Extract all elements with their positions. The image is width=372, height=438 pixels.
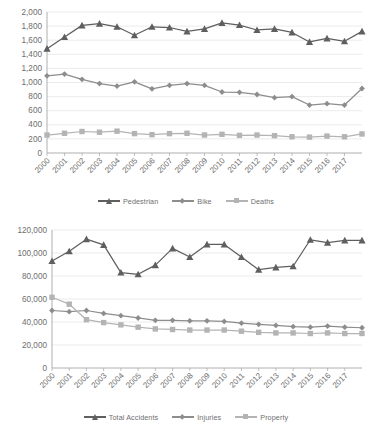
x-axis-tick-label: 2011 — [228, 371, 247, 390]
data-point-marker — [307, 102, 313, 108]
y-axis-tick-label: 2,000 — [22, 8, 43, 17]
data-point-marker — [131, 32, 138, 39]
x-axis-tick-label: 2004 — [107, 371, 126, 390]
data-point-marker — [44, 132, 49, 137]
legend-marker-triangle-icon — [84, 413, 106, 421]
x-axis-tick-label: 2015 — [296, 371, 315, 390]
legend-item[interactable]: Injuries — [172, 413, 221, 422]
legend-marker-diamond-icon — [172, 413, 194, 421]
data-point-marker — [324, 101, 330, 107]
x-axis-tick-label: 2005 — [124, 371, 143, 390]
data-point-marker — [62, 71, 68, 77]
x-axis-tick-label: 2015 — [295, 156, 314, 175]
data-point-marker — [239, 329, 244, 334]
data-point-marker — [84, 317, 89, 322]
data-point-marker — [273, 330, 278, 335]
data-point-marker — [79, 129, 84, 134]
series-pedestrian — [43, 19, 365, 51]
legend-marker-square-icon — [226, 197, 248, 205]
data-point-marker — [325, 323, 331, 329]
y-axis-tick-label: 120,000 — [17, 226, 47, 235]
data-point-marker — [272, 95, 278, 101]
data-point-marker — [254, 132, 259, 137]
x-axis-tick-label: 2014 — [278, 156, 297, 175]
data-point-marker — [202, 82, 208, 88]
y-axis-tick-label: 1,400 — [22, 50, 43, 59]
data-point-marker — [184, 81, 190, 87]
legend-item[interactable]: Property — [235, 413, 288, 422]
legend-label: Property — [260, 413, 288, 422]
x-axis-tick-label: 2002 — [68, 156, 87, 175]
x-axis-tick-label: 2013 — [262, 371, 281, 390]
legend-item[interactable]: Bike — [172, 197, 211, 206]
data-point-marker — [169, 245, 176, 252]
series-injuries — [49, 308, 365, 331]
traffic-fatalities-chart: 02004006008001,0001,2001,4001,6001,8002,… — [0, 0, 372, 220]
x-axis-tick-label: 2009 — [193, 371, 212, 390]
data-point-marker — [187, 327, 192, 332]
data-point-marker — [48, 257, 55, 264]
data-point-marker — [66, 309, 72, 315]
y-axis-tick-label: 400 — [28, 120, 42, 129]
data-point-marker — [184, 131, 189, 136]
data-point-marker — [308, 331, 313, 336]
data-point-marker — [132, 79, 138, 85]
plot-svg-bottom: 020,00040,00060,00080,000100,000120,0002… — [0, 220, 372, 410]
x-axis-tick-label: 2008 — [173, 156, 192, 175]
y-axis-tick-label: 60,000 — [22, 295, 47, 304]
data-point-marker — [289, 94, 295, 100]
data-point-marker — [256, 330, 261, 335]
plot-svg-top: 02004006008001,0001,2001,4001,6001,8002,… — [0, 0, 372, 195]
x-axis-tick-label: 2007 — [155, 156, 174, 175]
data-point-marker — [149, 86, 155, 92]
data-point-marker — [44, 73, 50, 79]
legend-marker-square-icon — [235, 413, 257, 421]
data-point-marker — [118, 313, 124, 319]
series-total-accidents — [48, 236, 365, 278]
data-point-marker — [237, 89, 243, 95]
data-point-marker — [237, 133, 242, 138]
data-point-marker — [135, 324, 140, 329]
x-axis-tick-label: 2004 — [103, 156, 122, 175]
data-point-marker — [79, 76, 85, 82]
y-axis-tick-label: 1,800 — [22, 22, 43, 31]
data-point-marker — [219, 89, 225, 95]
x-axis-tick-label: 2010 — [208, 156, 227, 175]
data-point-marker — [170, 327, 175, 332]
x-axis-tick-label: 2009 — [190, 156, 209, 175]
data-point-marker — [359, 325, 365, 331]
data-point-marker — [359, 131, 364, 136]
data-point-marker — [359, 331, 364, 336]
legend-item[interactable]: Pedestrian — [98, 197, 158, 206]
legend-marker-triangle-icon — [98, 197, 120, 205]
data-point-marker — [290, 324, 296, 330]
legend-item[interactable]: Deaths — [226, 197, 274, 206]
x-axis-tick-label: 2011 — [226, 156, 245, 175]
data-point-marker — [222, 327, 227, 332]
data-point-marker — [323, 35, 330, 42]
data-point-marker — [204, 318, 210, 324]
data-point-marker — [118, 322, 123, 327]
data-point-marker — [202, 132, 207, 137]
x-axis-tick-label: 2003 — [90, 371, 109, 390]
data-point-marker — [62, 131, 67, 136]
legend-marker-diamond-icon — [172, 197, 194, 205]
total-accidents-chart: 020,00040,00060,00080,000100,000120,0002… — [0, 220, 372, 438]
x-axis-tick-label: 2010 — [210, 371, 229, 390]
data-point-marker — [167, 82, 173, 88]
data-point-marker — [221, 319, 227, 325]
legend-item[interactable]: Total Accidents — [84, 413, 158, 422]
data-point-marker — [66, 248, 73, 255]
x-axis-tick-label: 2001 — [55, 371, 74, 390]
data-point-marker — [135, 315, 141, 321]
y-axis-tick-label: 200 — [28, 135, 42, 144]
x-axis-tick-label: 2012 — [245, 371, 264, 390]
x-axis-tick-label: 2003 — [85, 156, 104, 175]
data-point-marker — [358, 28, 365, 35]
data-point-marker — [167, 131, 172, 136]
legend-label: Bike — [197, 197, 211, 206]
plot-area-bottom: 020,00040,00060,00080,000100,000120,0002… — [0, 220, 372, 410]
x-axis-tick-label: 2013 — [260, 156, 279, 175]
x-axis-tick-label: 2014 — [279, 371, 298, 390]
data-point-marker — [272, 133, 277, 138]
